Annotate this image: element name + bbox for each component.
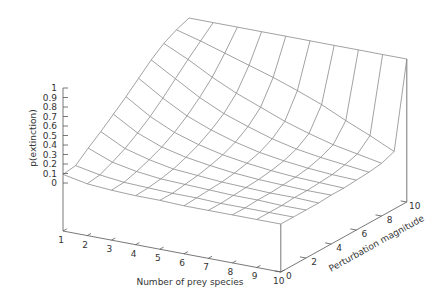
y-tick-label: 4 [336,243,342,253]
mesh-line [100,175,124,182]
mesh-line [308,157,321,168]
y-tick-label: 8 [387,215,393,225]
mesh-line [306,203,319,210]
mesh-line [199,145,223,155]
mesh-line [333,121,346,145]
mesh-line [125,149,149,160]
mesh-line [148,179,161,188]
mesh-line [333,145,357,154]
mesh-line [201,23,214,41]
mesh-line [162,147,186,157]
mesh-line [209,190,233,196]
mesh-line [187,98,200,116]
mesh-line [284,161,308,168]
mesh-line [332,175,356,181]
mesh-line [211,114,224,131]
mesh-line [283,185,307,191]
mesh-line [273,77,297,90]
mesh-line [225,53,249,65]
mesh-line [261,77,274,107]
mesh-line [209,182,222,190]
z-tick-label: 0.6 [43,121,58,131]
y-tick-label: 10 [409,201,421,211]
mesh-line [88,148,112,162]
surface-mesh [63,18,407,224]
mesh-line [198,166,211,176]
mesh-line [321,157,345,164]
mesh-line [296,149,320,157]
mesh-line [208,210,232,215]
mesh-line [172,193,196,198]
mesh-line [370,136,394,152]
x-tick [184,252,188,254]
mesh-line [297,41,310,91]
x-tick [63,229,67,231]
y-tick [325,243,331,244]
mesh-line [124,182,148,188]
mesh-line [234,173,258,179]
x-tick-label: 9 [252,271,258,281]
mesh-line [161,169,174,179]
mesh-line [285,91,298,122]
mesh-line [307,191,331,196]
mesh-line [197,190,210,198]
z-tick-label: 0.1 [43,169,57,179]
mesh-line [320,175,333,183]
mesh-line [236,65,249,93]
mesh-line [87,184,111,190]
mesh-line [232,215,256,220]
mesh-line [283,177,296,185]
mesh-line [137,172,161,179]
mesh-line [272,121,285,139]
mesh-line [163,98,187,116]
mesh-line [160,193,173,200]
mesh-line [160,200,184,206]
mesh-line [200,98,224,114]
mesh-line [234,163,247,173]
x-tick-label: 2 [82,240,88,250]
mesh-line [257,213,270,220]
mesh-line [262,32,286,37]
mesh-line [269,206,282,213]
mesh-line [184,198,197,206]
mesh-line [187,116,211,130]
z-axis-title: p(extinction) [28,109,38,166]
mesh-line [235,127,248,143]
mesh-line [307,183,320,191]
y-tick [275,271,281,272]
y-tick-label: 0 [286,271,292,281]
x-tick-label: 3 [107,244,113,254]
mesh-line [285,121,309,133]
y-tick [401,201,407,202]
mesh-line [221,195,234,203]
mesh-line [321,145,334,158]
x-tick-label: 8 [228,267,234,277]
mesh-line [200,77,213,97]
mesh-line [282,198,295,206]
mesh-line [357,154,381,163]
mesh-line [189,18,213,23]
x-tick-label: 5 [155,253,161,263]
mesh-line [76,166,100,175]
mesh-line [151,43,164,60]
mesh-line [259,171,272,180]
mesh-line [76,148,89,166]
mesh-line [137,160,150,172]
mesh-line [136,196,160,201]
x-tick [160,247,164,249]
x-tick [232,261,236,263]
mesh-line [175,79,199,98]
mesh-line [334,45,358,50]
mesh-line [149,160,173,169]
mesh-line [112,162,136,171]
mesh-line [356,172,369,180]
mesh-line [63,166,76,175]
z-tick-label: 0.9 [43,93,58,103]
mesh-line [223,155,247,163]
z-tick-label: 0.4 [43,140,58,150]
z-tick-label: 0.7 [43,112,57,122]
mesh-line [174,116,187,132]
mesh-line [111,190,135,196]
mesh-line [210,166,234,174]
mesh-line [126,78,139,96]
